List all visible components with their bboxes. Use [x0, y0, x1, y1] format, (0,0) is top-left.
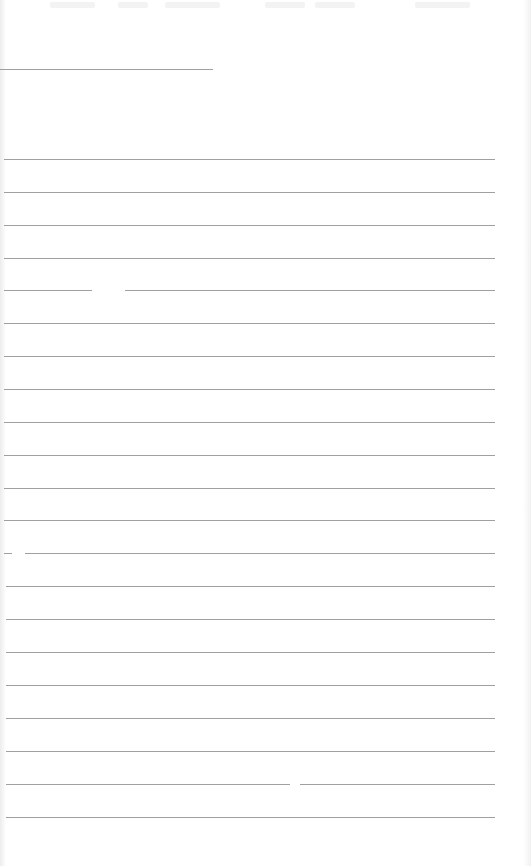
ruled-line — [6, 817, 495, 818]
ruled-line — [4, 192, 495, 193]
ruled-line — [4, 455, 495, 456]
header-line — [0, 69, 213, 70]
line-gap — [92, 289, 125, 292]
ruled-line — [6, 784, 495, 785]
ruled-line — [4, 225, 495, 226]
ruled-line — [6, 718, 495, 719]
ruled-line — [4, 389, 495, 390]
ruled-line — [4, 488, 495, 489]
line-gap — [290, 783, 300, 786]
bleed-mark — [165, 2, 220, 8]
ruled-line — [4, 422, 495, 423]
bleed-mark — [415, 2, 470, 8]
ruled-line — [6, 652, 495, 653]
ruled-line — [4, 258, 495, 259]
page-right-edge-shadow — [523, 0, 531, 866]
lined-paper-page — [0, 0, 531, 866]
bleed-mark — [315, 2, 355, 8]
ruled-line — [6, 751, 495, 752]
ruled-line — [4, 159, 495, 160]
ruled-line — [4, 290, 495, 291]
ruled-line — [4, 323, 495, 324]
ruled-line — [4, 356, 495, 357]
ruled-line — [4, 520, 495, 521]
ruled-line — [4, 553, 495, 554]
ruled-line — [6, 685, 495, 686]
ruled-line — [6, 586, 495, 587]
page-left-edge-shadow — [0, 0, 6, 866]
bleed-mark — [118, 2, 148, 8]
bleed-mark — [265, 2, 305, 8]
ruled-line — [6, 619, 495, 620]
bleed-mark — [50, 2, 95, 8]
line-gap — [12, 552, 25, 555]
